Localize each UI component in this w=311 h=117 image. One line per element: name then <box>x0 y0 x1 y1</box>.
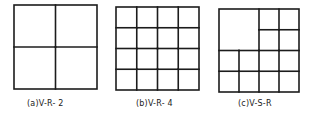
caption-c: (c)V-S-R <box>238 99 272 108</box>
